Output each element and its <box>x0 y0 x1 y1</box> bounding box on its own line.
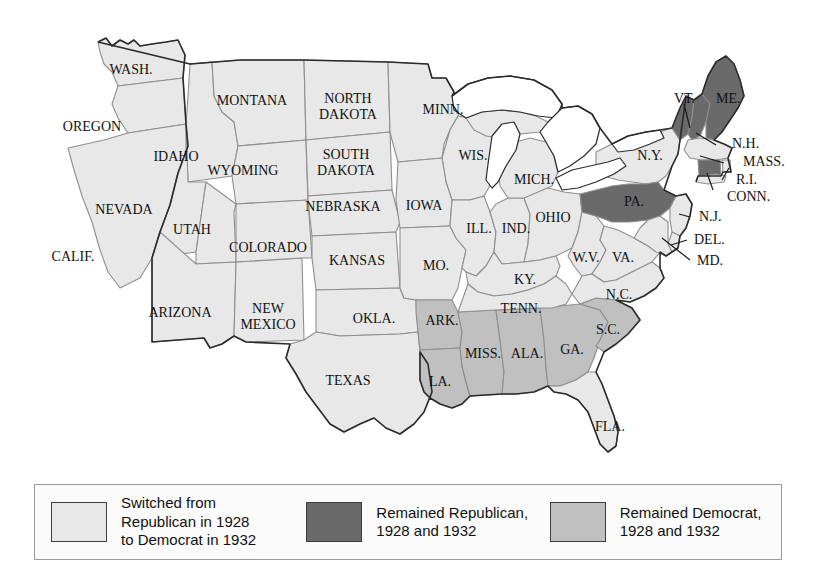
state-label-vt: VT. <box>674 91 695 106</box>
state-label-mich: MICH. <box>514 172 554 187</box>
state-label-md: MD. <box>697 253 723 268</box>
legend-label-switched: Switched from Republican in 1928 to Demo… <box>121 494 256 550</box>
legend-label-republican: Remained Republican, 1928 and 1932 <box>376 504 528 541</box>
election-map-figure: WASH.OREGONCALIF.IDAHONEVADAMONTANAWYOMI… <box>0 0 820 579</box>
state-shape-oregon[interactable] <box>112 78 186 133</box>
state-label-colorado: COLORADO <box>229 240 307 255</box>
legend-entry-switched[interactable]: Switched from Republican in 1928 to Demo… <box>35 494 302 550</box>
state-label-north-dakota: NORTHDAKOTA <box>319 92 378 123</box>
state-label-minn: MINN. <box>423 102 464 117</box>
state-label-south-dakota: SOUTHDAKOTA <box>317 148 376 179</box>
state-label-wash: WASH. <box>109 62 152 77</box>
state-label-ohio: OHIO <box>536 210 571 225</box>
state-label-ill: ILL. <box>466 221 491 236</box>
state-label-pa: PA. <box>624 194 644 209</box>
state-shapes-layer <box>68 38 744 452</box>
state-label-w-v: W.V. <box>572 250 599 265</box>
map-legend: Switched from Republican in 1928 to Demo… <box>34 484 782 560</box>
state-label-nevada: NEVADA <box>95 202 153 217</box>
legend-swatch-switched <box>51 502 107 542</box>
state-label-ga: GA. <box>560 342 584 357</box>
state-label-oregon: OREGON <box>63 119 121 134</box>
state-label-ark: ARK. <box>425 313 458 328</box>
state-label-la: LA. <box>429 374 451 389</box>
state-label-calif: CALIF. <box>52 249 95 264</box>
state-shape-iowa[interactable] <box>396 158 452 228</box>
state-label-n-y: N.Y. <box>637 148 662 163</box>
state-label-del: DEL. <box>694 232 725 247</box>
state-label-ala: ALA. <box>511 346 543 361</box>
state-label-arizona: ARIZONA <box>149 305 213 320</box>
state-label-ind: IND. <box>502 221 530 236</box>
state-label-ky: KY. <box>514 272 536 287</box>
state-label-okla: OKLA. <box>353 311 395 326</box>
state-label-montana: MONTANA <box>217 93 288 108</box>
map-area: WASH.OREGONCALIF.IDAHONEVADAMONTANAWYOMI… <box>0 0 820 478</box>
state-label-n-c: N.C. <box>606 287 632 302</box>
state-label-kansas: KANSAS <box>329 253 385 268</box>
state-label-n-h: N.H. <box>732 136 759 151</box>
state-label-fla: FLA. <box>595 419 625 434</box>
state-label-wis: WIS. <box>458 148 487 163</box>
state-label-conn: CONN. <box>727 189 770 204</box>
united-states-map[interactable]: WASH.OREGONCALIF.IDAHONEVADAMONTANAWYOMI… <box>0 0 820 478</box>
state-label-mo: MO. <box>423 258 449 273</box>
legend-label-democrat: Remained Democrat, 1928 and 1932 <box>620 504 762 541</box>
state-label-wyoming: WYOMING <box>208 163 279 178</box>
state-label-s-c: S.C. <box>596 322 620 337</box>
legend-entry-democrat[interactable]: Remained Democrat, 1928 and 1932 <box>542 502 781 542</box>
state-label-texas: TEXAS <box>325 373 370 388</box>
legend-swatch-democrat <box>550 502 606 542</box>
state-label-iowa: IOWA <box>406 198 443 213</box>
state-label-me: ME. <box>716 91 741 106</box>
state-shape-massachusetts[interactable] <box>684 138 732 160</box>
legend-swatch-republican <box>306 502 362 542</box>
state-label-va: VA. <box>612 250 634 265</box>
state-label-n-j: N.J. <box>699 209 722 224</box>
state-label-utah: UTAH <box>173 222 211 237</box>
state-label-r-i: R.I. <box>736 172 757 187</box>
state-label-mass: MASS. <box>743 154 785 169</box>
state-label-tenn: TENN. <box>501 301 542 316</box>
legend-entry-republican[interactable]: Remained Republican, 1928 and 1932 <box>302 502 541 542</box>
state-label-idaho: IDAHO <box>153 149 198 164</box>
state-label-nebraska: NEBRASKA <box>305 199 381 214</box>
state-shape-connecticut[interactable] <box>698 160 721 176</box>
state-label-miss: MISS. <box>465 346 501 361</box>
